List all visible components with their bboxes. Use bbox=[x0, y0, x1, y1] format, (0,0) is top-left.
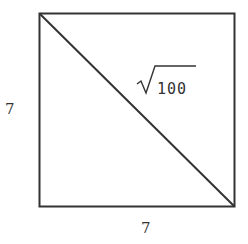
bottom-side-label: 7 bbox=[141, 219, 151, 237]
square-diagram: 7 7 100 bbox=[0, 0, 248, 244]
diagonal-label: 100 bbox=[137, 66, 196, 98]
left-side-label: 7 bbox=[5, 100, 15, 118]
radicand: 100 bbox=[157, 80, 187, 98]
diagonal-line bbox=[40, 14, 235, 207]
